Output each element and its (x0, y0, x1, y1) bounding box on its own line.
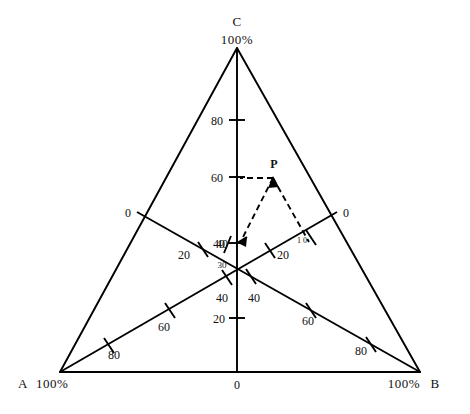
axis-b-label-40-lower: 40 (248, 291, 260, 305)
triangle-outline (60, 48, 420, 372)
right-corner-component-label: B (430, 376, 439, 391)
axis-a-diagonal (60, 212, 337, 372)
apex-component-label: C (232, 14, 241, 29)
dashed-p-to-a30 (240, 178, 273, 243)
apex-value-label: 100% (221, 32, 253, 47)
center-label-30: 30 (218, 260, 228, 270)
ternary-diagram-canvas: C 100% A 100% 100% B 80 60 40 20 0 0 0 2… (0, 0, 470, 414)
axis-b-label-20: 20 (178, 248, 190, 262)
axis-b-diagonal (137, 212, 420, 372)
tick-a-20 (265, 243, 275, 258)
point-p-label: P (270, 157, 277, 171)
triangle-edge-right (237, 48, 420, 372)
axis-c-label-20: 20 (213, 312, 225, 326)
left-corner-value-label: 100% (36, 376, 68, 391)
tick-b-80 (366, 337, 376, 352)
axis-b-label-60: 60 (302, 314, 314, 328)
internal-axes (60, 48, 420, 372)
axis-a-label-60: 60 (158, 320, 170, 334)
tick-b-20 (198, 242, 208, 257)
axis-b-label-0: 0 (125, 206, 131, 220)
axis-b-label-40: 40 (216, 237, 228, 251)
ternary-diagram-figure: C 100% A 100% 100% B 80 60 40 20 0 0 0 2… (0, 0, 470, 414)
axis-c-label-80: 80 (211, 114, 223, 128)
axis-a-label-80: 80 (108, 348, 120, 362)
triangle-edge-left (60, 48, 237, 372)
axis-a-label-40: 40 (216, 291, 228, 305)
axis-a-label-0: 0 (343, 206, 349, 220)
axis-b-label-80: 80 (355, 344, 367, 358)
axis-a-label-20: 20 (277, 248, 289, 262)
axis-c-label-60: 60 (211, 171, 223, 185)
tick-b-40 (246, 269, 256, 284)
tick-b-10 (306, 230, 316, 245)
left-corner-component-label: A (18, 376, 28, 391)
axis-c-label-0: 0 (234, 378, 240, 392)
dashed-p-to-b10 (273, 178, 309, 242)
axis-a-label-10: 1 0 (297, 236, 307, 245)
right-corner-value-label: 100% (388, 376, 420, 391)
